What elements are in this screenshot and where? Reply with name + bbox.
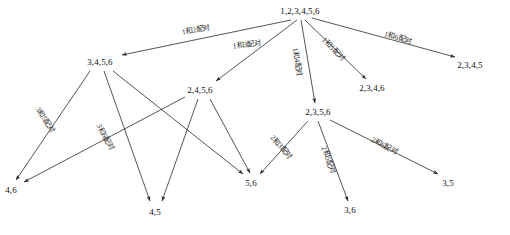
node-n46: 4,6 — [5, 185, 17, 195]
node-n45: 4,5 — [149, 207, 161, 217]
edge-n3456-to-n56 — [113, 71, 243, 174]
node-n2346: 2,3,4,6 — [359, 83, 384, 93]
edge-root-to-n2356 — [301, 20, 315, 103]
edge-layer — [0, 0, 510, 235]
node-n2345: 2,3,4,5 — [457, 60, 482, 70]
node-n56: 5,6 — [245, 178, 257, 188]
diagram-canvas: 1,2,3,4,5,63,4,5,62,4,5,62,3,5,62,3,4,62… — [0, 0, 510, 235]
node-n35: 3,5 — [442, 178, 454, 188]
node-n36: 3,6 — [344, 205, 356, 215]
edge-n2456-to-n56 — [210, 99, 250, 173]
edge-root-to-n2456 — [216, 20, 297, 81]
node-root: 1,2,3,4,5,6 — [280, 6, 319, 16]
node-n2356: 2,3,5,6 — [305, 107, 330, 117]
node-n3456: 3,4,5,6 — [87, 57, 112, 67]
node-n2456: 2,4,5,6 — [187, 85, 212, 95]
